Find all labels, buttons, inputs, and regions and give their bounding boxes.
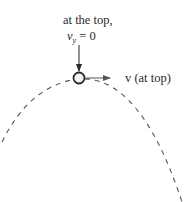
projectile-diagram <box>0 0 192 202</box>
trajectory-path <box>2 79 182 202</box>
ball-icon <box>74 73 85 84</box>
